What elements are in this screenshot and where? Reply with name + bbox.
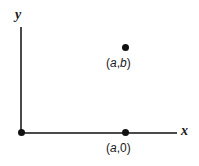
point-a0-label: (a,0) — [106, 142, 131, 154]
point-a0-label-var-a: a — [110, 141, 117, 155]
y-axis-label: y — [15, 8, 21, 22]
point-ab-dot — [122, 44, 129, 51]
origin-point-dot — [18, 129, 25, 136]
coordinate-plane-figure: y x (a,b) (a,0) — [0, 0, 199, 166]
y-axis-line — [20, 27, 22, 134]
point-a0-dot — [122, 129, 129, 136]
point-ab-label-var-a: a — [110, 56, 117, 70]
point-ab-label-var-b: b — [120, 56, 127, 70]
point-ab-label-paren-close: ) — [127, 56, 131, 70]
x-axis-label: x — [181, 124, 188, 138]
point-a0-label-paren-close: ) — [127, 141, 131, 155]
point-ab-label: (a,b) — [106, 57, 131, 69]
point-a0-label-value-zero: 0 — [120, 141, 127, 155]
x-axis-line — [20, 132, 177, 134]
